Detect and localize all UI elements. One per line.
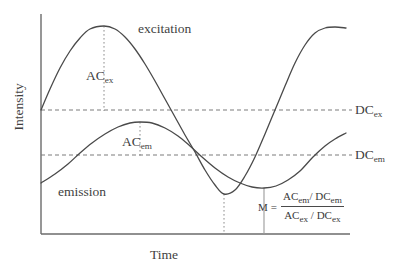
dc-em-label: DCem — [355, 148, 385, 162]
plot-canvas — [0, 0, 406, 274]
formula-den-second-subscript: ex — [332, 214, 341, 224]
dc-ex-label: DCex — [355, 103, 382, 117]
ac-ex-label-text: AC — [86, 68, 105, 83]
ac-em-label-subscript: em — [141, 141, 152, 151]
emission-label: emission — [58, 185, 106, 199]
formula-lhs: M — [258, 201, 268, 213]
formula-den-first-subscript: ex — [299, 214, 308, 224]
formula-denominator: ACex / DCex — [281, 207, 344, 224]
ac-em-label-text: AC — [122, 134, 141, 149]
formula-num-first-subscript: em — [298, 195, 309, 205]
formula-den-second: DC — [317, 209, 332, 221]
formula-fraction: ACem/ DCem ACex / DCex — [281, 190, 344, 224]
formula-den-first: AC — [284, 209, 299, 221]
formula-numerator: ACem/ DCem — [281, 190, 344, 207]
formula-den-slash: / — [311, 209, 314, 221]
dc-ex-label-text: DC — [355, 102, 374, 117]
formula-num-first: AC — [283, 190, 298, 202]
formula-num-second: DC — [315, 190, 330, 202]
y-axis-label: Intensity — [12, 72, 26, 142]
x-axis-label: Time — [150, 248, 178, 262]
dc-em-label-text: DC — [355, 147, 374, 162]
excitation-label: excitation — [138, 22, 191, 36]
dc-em-label-subscript: em — [374, 154, 385, 164]
modulation-formula: M = ACem/ DCem ACex / DCex — [258, 190, 344, 224]
formula-num-slash: / — [309, 190, 312, 202]
formula-equals: = — [271, 201, 277, 213]
ac-ex-label-subscript: ex — [105, 75, 114, 85]
formula-num-second-subscript: em — [331, 195, 342, 205]
dc-ex-label-subscript: ex — [374, 109, 383, 119]
ac-em-label: ACem — [122, 135, 152, 149]
fluorescence-modulation-figure: excitation emission ACex ACem DCex DCem … — [0, 0, 406, 274]
ac-ex-label: ACex — [86, 69, 113, 83]
